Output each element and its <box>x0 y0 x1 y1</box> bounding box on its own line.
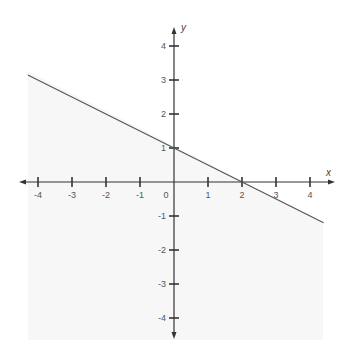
y-tick-label: -2 <box>158 245 166 255</box>
y-tick-label: 4 <box>161 41 166 51</box>
x-tick-label: -2 <box>102 190 110 200</box>
y-tick-label: -4 <box>158 313 166 323</box>
x-tick-label: -1 <box>136 190 144 200</box>
y-axis-label: y <box>180 22 187 33</box>
y-tick-label: 1 <box>161 143 166 153</box>
x-axis-label: x <box>325 167 332 178</box>
x-axis-arrow-left-icon <box>19 180 26 185</box>
x-tick-label: -4 <box>34 190 42 200</box>
x-tick-label: 0 <box>163 190 168 200</box>
x-tick-label: 1 <box>205 190 210 200</box>
y-tick-label: -1 <box>158 211 166 221</box>
shaded-region <box>28 71 323 340</box>
x-tick-label: 4 <box>307 190 312 200</box>
y-tick-label: 3 <box>161 75 166 85</box>
y-tick-label: 2 <box>161 109 166 119</box>
x-tick-label: -3 <box>68 190 76 200</box>
y-tick-label: -3 <box>158 279 166 289</box>
coordinate-plane: -4-3-2-1012344321-1-2-3-4 x y <box>0 0 353 352</box>
x-tick-label: 2 <box>239 190 244 200</box>
y-axis-arrow-up-icon <box>172 27 177 34</box>
x-axis-arrow-right-icon <box>328 180 335 185</box>
